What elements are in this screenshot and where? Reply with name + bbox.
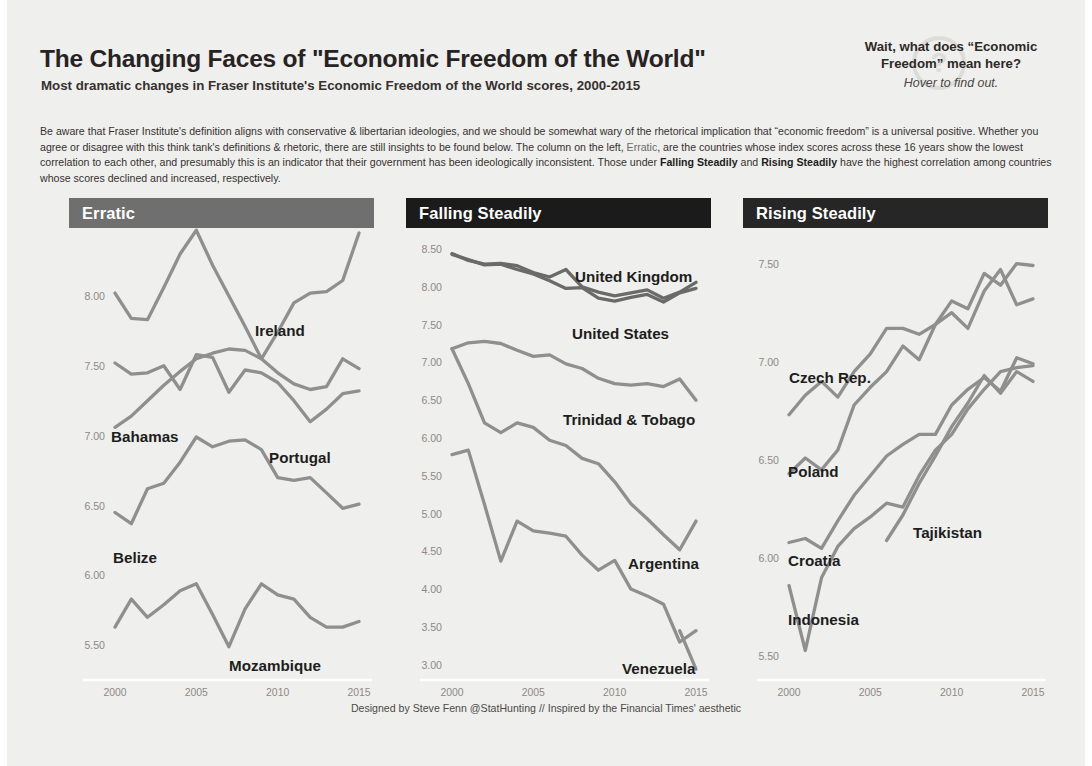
help-line-1: Wait, what does “Economic <box>829 38 1073 55</box>
x-tick-label: 2010 <box>266 687 289 698</box>
x-tick-label: 2010 <box>940 687 963 698</box>
x-tick-label: 2005 <box>522 687 545 698</box>
description-emph-falling: Falling Steadily <box>660 156 738 168</box>
x-tick-label: 2000 <box>777 687 800 698</box>
description-emph-erratic: Erratic <box>627 141 658 153</box>
page-subtitle: Most dramatic changes in Fraser Institut… <box>41 78 640 93</box>
help-line-3: Hover to find out. <box>829 75 1073 91</box>
x-tick-label: 2015 <box>347 687 370 698</box>
x-tick-label: 2000 <box>440 687 463 698</box>
panel-band-erratic: Erratic <box>69 198 374 228</box>
description-part-3: and <box>738 156 762 168</box>
panel-erratic: Erratic <box>69 198 374 668</box>
footer-credit: Designed by Steve Fenn @StatHunting // I… <box>7 702 1085 714</box>
description-paragraph: Be aware that Fraser Institute's definit… <box>40 124 1064 186</box>
x-tick-label: 2010 <box>603 687 626 698</box>
help-tooltip-trigger[interactable]: Wait, what does “Economic Freedom” mean … <box>829 38 1073 91</box>
panel-band-falling: Falling Steadily <box>406 198 711 228</box>
panel-rising: Rising Steadily <box>743 198 1048 668</box>
panel-band-rising: Rising Steadily <box>743 198 1048 228</box>
panel-title-falling: Falling Steadily <box>419 204 542 223</box>
x-tick-label: 2005 <box>859 687 882 698</box>
panel-title-rising: Rising Steadily <box>756 204 876 223</box>
x-tick-label: 2015 <box>1021 687 1044 698</box>
page-title: The Changing Faces of "Economic Freedom … <box>40 45 706 73</box>
x-tick-label: 2005 <box>185 687 208 698</box>
help-line-2: Freedom” mean here? <box>829 55 1073 72</box>
x-tick-label: 2015 <box>684 687 707 698</box>
x-tick-label: 2000 <box>103 687 126 698</box>
panel-title-erratic: Erratic <box>82 204 135 223</box>
panel-falling: Falling Steadily <box>406 198 711 668</box>
description-emph-rising: Rising Steadily <box>761 156 837 168</box>
infographic-root: The Changing Faces of "Economic Freedom … <box>0 0 1092 766</box>
